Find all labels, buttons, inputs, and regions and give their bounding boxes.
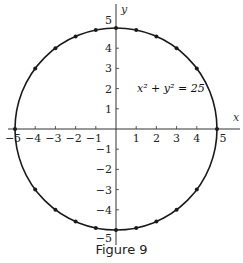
figure-caption: Figure 9 (0, 242, 243, 257)
data-point (33, 66, 37, 70)
y-tick-label: 5 (105, 14, 112, 27)
data-point (13, 127, 17, 131)
data-point (134, 28, 138, 32)
x-tick-label: −2 (65, 132, 81, 145)
data-point (74, 220, 78, 224)
y-tick-label: 1 (105, 103, 112, 116)
data-point (154, 220, 158, 224)
y-tick-label: −3 (96, 184, 112, 197)
x-axis-label: x (233, 111, 240, 124)
equation-label: x² + y² = 25 (137, 82, 205, 95)
x-tick-label: 5 (220, 132, 227, 145)
x-tick-label: 2 (153, 132, 160, 145)
data-point (195, 188, 199, 192)
data-point (195, 66, 199, 70)
data-point (33, 188, 37, 192)
x-tick-label: 1 (133, 132, 140, 145)
x-tick-label: 3 (173, 132, 180, 145)
data-point (114, 26, 118, 30)
data-point (175, 46, 179, 50)
x-tick-label: −3 (45, 132, 61, 145)
y-axis-label: y (120, 3, 128, 16)
y-tick-label: −2 (96, 163, 112, 176)
data-point (175, 208, 179, 212)
x-tick-label: −4 (25, 132, 41, 145)
y-tick-label: 4 (105, 42, 112, 55)
data-point (53, 208, 57, 212)
y-tick-label: 3 (105, 62, 112, 75)
y-tick-label: −1 (96, 143, 112, 156)
data-point (114, 228, 118, 232)
x-tick-label: 4 (193, 132, 200, 145)
data-point (134, 226, 138, 230)
data-point (215, 127, 219, 131)
data-point (94, 226, 98, 230)
data-point (74, 34, 78, 38)
data-point (53, 46, 57, 50)
y-tick-label: −4 (96, 204, 112, 217)
y-tick-label: 2 (105, 83, 112, 96)
x-tick-label: −5 (5, 132, 21, 145)
data-point (154, 34, 158, 38)
circle-graph: −5−4−3−2−11234554321−1−2−3−4−5 x y x² + … (0, 0, 243, 263)
data-point (94, 28, 98, 32)
